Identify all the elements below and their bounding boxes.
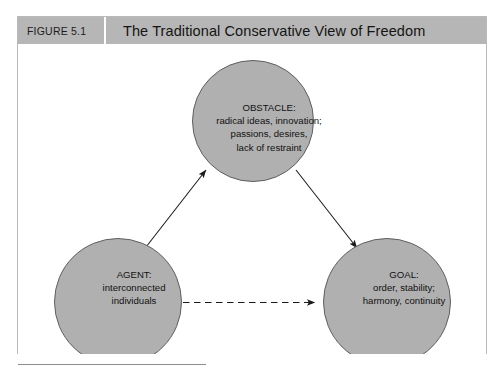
figure-header-bar: FIGURE 5.1 The Traditional Conservative …	[18, 17, 486, 44]
figure-title: The Traditional Conservative View of Fre…	[106, 23, 486, 39]
connector-agent-to-obstacle	[146, 170, 206, 247]
figure-number-label: FIGURE 5.1	[18, 25, 104, 37]
node-circle-agent[interactable]	[55, 239, 182, 355]
caption-rule	[18, 364, 206, 365]
diagram-canvas: OBSTACLE: radical ideas, innovation; pas…	[18, 44, 486, 354]
node-circle-goal[interactable]	[324, 239, 451, 355]
diagram-graphics	[18, 44, 486, 354]
node-circle-obstacle[interactable]	[193, 61, 314, 182]
connector-obstacle-to-goal	[296, 170, 357, 248]
figure-frame: FIGURE 5.1 The Traditional Conservative …	[17, 16, 487, 354]
figure-container: FIGURE 5.1 The Traditional Conservative …	[0, 0, 501, 376]
